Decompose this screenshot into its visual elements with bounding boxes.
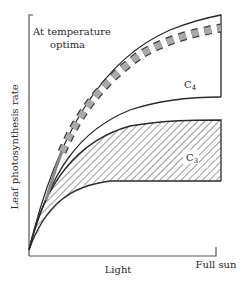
- c4-label-sub: 4: [192, 84, 197, 92]
- c3-label-group: C3: [183, 150, 199, 165]
- y-axis: [29, 15, 33, 256]
- x-axis: [29, 247, 216, 256]
- y-axis-label: Leaf photosynthesis rate: [9, 84, 20, 209]
- c3-label-sub: 3: [194, 157, 198, 165]
- annotation-line-1: At temperature: [32, 26, 111, 37]
- c3-band: [29, 120, 221, 250]
- c4-label: C4: [184, 79, 197, 92]
- x-axis-label: Light: [105, 264, 132, 275]
- c3-c4-light-response-diagram: At temperature optima C4 C3 Leaf photosy…: [0, 0, 243, 287]
- annotation-line-2: optima: [50, 39, 85, 50]
- x-axis-end-label: Full sun: [196, 259, 238, 270]
